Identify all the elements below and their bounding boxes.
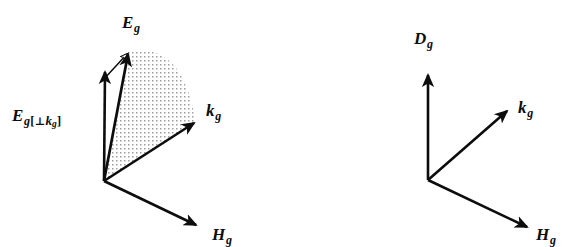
label-eg: Eg bbox=[122, 14, 140, 34]
label-hg-right-sub: g bbox=[550, 233, 556, 247]
perpendicular-icon: ⊥ bbox=[35, 115, 46, 127]
label-kg-right-base: k bbox=[518, 98, 527, 117]
vector-eg-perp-kg bbox=[104, 72, 105, 181]
vector-hg-right bbox=[428, 180, 527, 227]
label-kg-right: kg bbox=[518, 99, 533, 119]
label-dg: Dg bbox=[414, 30, 433, 50]
label-eg-sub: g bbox=[134, 21, 140, 35]
label-kg-right-sub: g bbox=[527, 106, 533, 120]
vector-kg-right bbox=[428, 111, 507, 180]
label-eg-perp-kg: Eg[⊥kg] bbox=[12, 107, 61, 129]
right-panel bbox=[428, 75, 527, 227]
label-dg-sub: g bbox=[427, 37, 433, 51]
label-eg-perp-close-bracket: ] bbox=[57, 114, 61, 128]
left-panel bbox=[104, 50, 196, 225]
label-hg-left: Hg bbox=[212, 226, 232, 246]
label-hg-left-sub: g bbox=[226, 233, 232, 247]
label-kg-left: kg bbox=[206, 102, 221, 122]
label-kg-left-sub: g bbox=[215, 109, 221, 123]
label-eg-perp-base: E bbox=[12, 106, 24, 125]
vector-hg-left bbox=[104, 181, 196, 225]
label-kg-left-base: k bbox=[206, 101, 215, 120]
label-eg-base: E bbox=[122, 13, 134, 32]
label-hg-left-base: H bbox=[212, 225, 225, 244]
label-hg-right: Hg bbox=[536, 226, 556, 246]
label-dg-base: D bbox=[414, 29, 426, 48]
label-hg-right-base: H bbox=[536, 225, 549, 244]
